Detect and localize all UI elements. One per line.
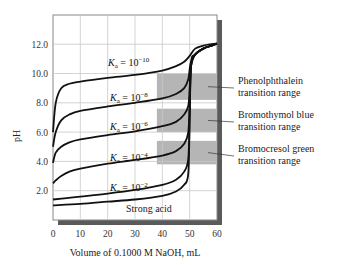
curve-label: Strong acid bbox=[126, 203, 172, 214]
y-axis-label: pH bbox=[11, 130, 22, 142]
x-tick-label: 20 bbox=[103, 229, 113, 239]
band-label-line2: transition range bbox=[238, 87, 301, 98]
y-tick-label: 12.0 bbox=[31, 40, 48, 50]
indicator-band bbox=[157, 141, 217, 164]
y-tick-label: 8.0 bbox=[36, 98, 48, 108]
band-label-line1: Bromothymol blue bbox=[238, 109, 314, 120]
x-tick-label: 50 bbox=[185, 229, 195, 239]
y-tick-label: 2.0 bbox=[36, 186, 48, 196]
x-tick-label: 40 bbox=[158, 229, 168, 239]
y-tick-label: 10.0 bbox=[31, 69, 48, 79]
x-tick-label: 30 bbox=[130, 229, 140, 239]
x-tick-label: 60 bbox=[212, 229, 222, 239]
indicator-bands bbox=[157, 74, 217, 165]
titration-chart: 2.04.06.08.010.012.0 0102030405060 Ka = … bbox=[0, 0, 337, 265]
indicator-band bbox=[157, 109, 217, 132]
band-label-line2: transition range bbox=[238, 121, 301, 132]
y-axis-ticks: 2.04.06.08.010.012.0 bbox=[31, 40, 48, 197]
band-labels: Phenolphthaleintransition rangeBromothym… bbox=[208, 75, 314, 166]
band-label-line1: Phenolphthalein bbox=[238, 75, 303, 86]
x-axis-ticks: 0102030405060 bbox=[51, 229, 222, 239]
y-tick-label: 4.0 bbox=[36, 157, 48, 167]
band-label-line1: Bromocresol green bbox=[238, 143, 314, 154]
x-tick-label: 0 bbox=[51, 229, 56, 239]
indicator-band bbox=[157, 74, 217, 100]
band-label-line2: transition range bbox=[238, 155, 301, 166]
x-tick-label: 10 bbox=[76, 229, 86, 239]
y-tick-label: 6.0 bbox=[36, 128, 48, 138]
x-axis-label: Volume of 0.1000 M NaOH, mL bbox=[70, 247, 201, 258]
